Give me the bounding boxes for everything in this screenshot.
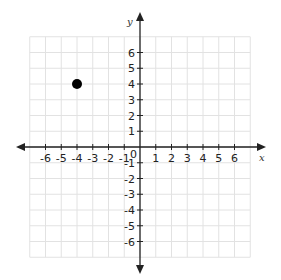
- x-tick-label: -6: [40, 152, 51, 165]
- x-tick-label: 4: [200, 152, 207, 165]
- y-tick-label: 4: [128, 78, 135, 91]
- y-tick-label: 6: [128, 47, 135, 60]
- x-axis-right-arrow-icon: [257, 143, 266, 151]
- x-axis-left-arrow-icon: [16, 143, 25, 151]
- y-axis-up-arrow-icon: [136, 12, 144, 21]
- y-tick-label: -5: [124, 220, 135, 233]
- y-tick-label: -4: [124, 204, 135, 217]
- y-tick-label: 3: [128, 94, 135, 107]
- y-tick-label: -3: [124, 188, 135, 201]
- data-point: [72, 79, 82, 89]
- x-tick-label: 6: [231, 152, 238, 165]
- y-tick-label: -6: [124, 236, 135, 249]
- axes: [16, 12, 266, 274]
- x-tick-label: 2: [168, 152, 175, 165]
- y-axis-label: y: [126, 16, 133, 27]
- x-tick-label: 5: [215, 152, 222, 165]
- x-axis-label: x: [259, 152, 265, 163]
- y-tick-label: 2: [128, 110, 135, 123]
- x-tick-label: 1: [152, 152, 159, 165]
- y-tick-label: 5: [128, 62, 135, 75]
- x-tick-label: -4: [72, 152, 83, 165]
- data-points: [72, 79, 82, 89]
- y-tick-label: -2: [124, 173, 135, 186]
- y-axis-down-arrow-icon: [136, 265, 144, 274]
- x-tick-label: -5: [56, 152, 67, 165]
- x-tick-label: -2: [103, 152, 114, 165]
- x-tick-label: 3: [184, 152, 191, 165]
- y-tick-label: 1: [128, 125, 135, 138]
- origin-label: 0: [130, 148, 137, 161]
- coordinate-plane: -6-5-4-3-2-1123456654321-1-2-3-4-5-60 x …: [0, 0, 281, 280]
- x-tick-label: -3: [87, 152, 98, 165]
